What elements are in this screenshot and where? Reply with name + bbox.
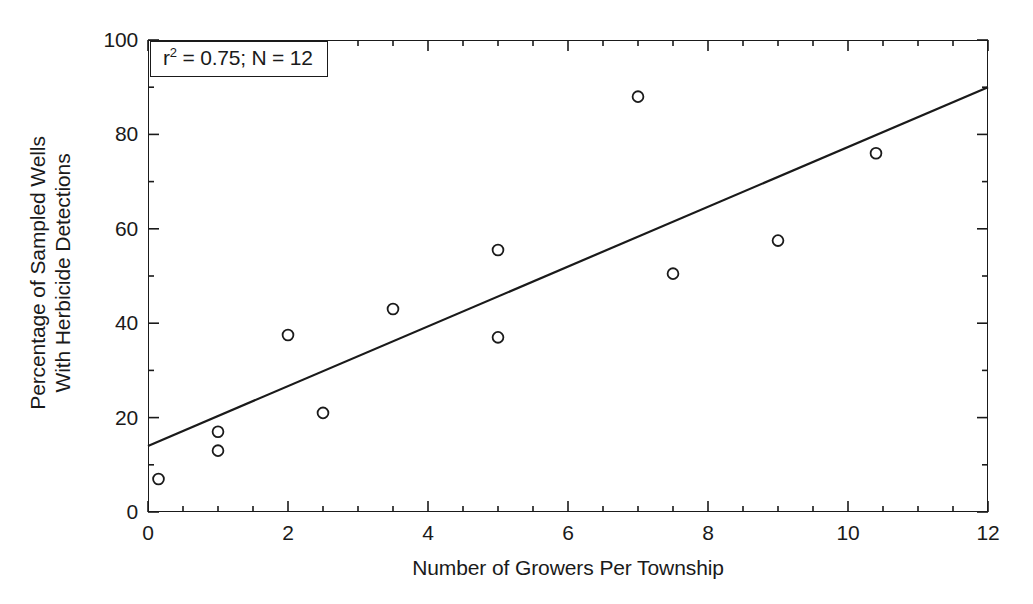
- y-tick-label: 20: [78, 407, 138, 428]
- y-tick-label: 100: [78, 29, 138, 50]
- x-axis-tick-labels: 024681012: [148, 522, 988, 552]
- x-tick-label: 4: [398, 522, 458, 543]
- x-tick-label: 2: [258, 522, 318, 543]
- y-tick-label: 0: [78, 501, 138, 522]
- scatter-plot-figure: 020406080100 Percentage of Sampled Wells…: [0, 0, 1033, 604]
- x-tick-label: 10: [818, 522, 878, 543]
- y-axis-title-line-1: Percentage of Sampled Wells: [25, 37, 50, 509]
- r-squared-symbol: r: [163, 46, 170, 69]
- statistics-annotation: r2 = 0.75; N = 12: [150, 41, 328, 77]
- y-axis-title-line-2: With Herbicide Detections: [50, 37, 75, 509]
- y-tick-label: 80: [78, 123, 138, 144]
- x-tick-label: 8: [678, 522, 738, 543]
- y-tick-label: 60: [78, 218, 138, 239]
- r-squared-values: = 0.75; N = 12: [177, 46, 313, 69]
- x-tick-label: 0: [118, 522, 178, 543]
- y-axis-title: Percentage of Sampled Wells With Herbici…: [25, 37, 75, 509]
- y-axis-tick-labels: 020406080100: [70, 40, 138, 512]
- r-squared-exponent: 2: [170, 45, 177, 60]
- x-axis-title: Number of Growers Per Township: [148, 556, 988, 580]
- y-tick-label: 40: [78, 312, 138, 333]
- x-tick-label: 12: [958, 522, 1018, 543]
- plot-frame: [148, 40, 988, 512]
- x-tick-label: 6: [538, 522, 598, 543]
